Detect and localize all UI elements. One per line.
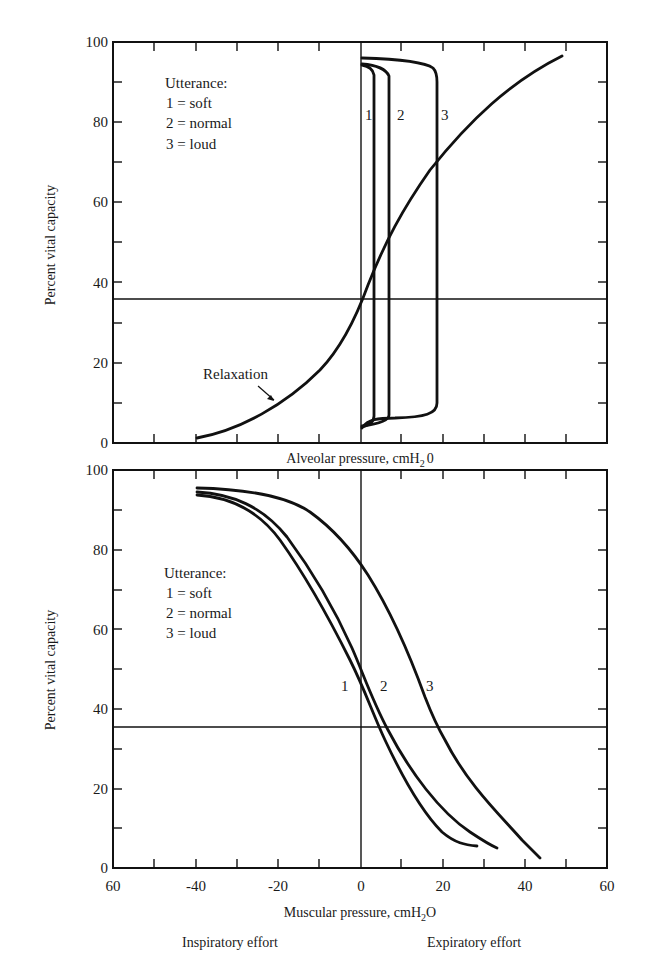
top-legend-soft: 1 = soft (166, 95, 213, 111)
bottom-legend-loud: 3 = loud (166, 625, 217, 641)
top-curve-label-1: 1 (365, 107, 373, 123)
bottom-curve-soft (197, 495, 477, 846)
top-relaxation-arrowhead-icon (267, 395, 274, 401)
top-ytick-40: 40 (93, 275, 108, 291)
top-x-ticks (154, 42, 566, 443)
bottom-ytick-0: 0 (101, 860, 109, 876)
bottom-y-axis-title: Percent vital capacity (43, 610, 58, 731)
bottom-curve-label-1: 1 (341, 678, 349, 694)
bottom-xtick-neg20: -20 (268, 878, 288, 894)
top-legend-normal: 2 = normal (166, 115, 232, 131)
bottom-ytick-20: 20 (93, 781, 108, 797)
bottom-ytick-40: 40 (93, 701, 108, 717)
top-ytick-80: 80 (93, 114, 108, 130)
top-legend-title: Utterance: (165, 75, 227, 91)
bottom-curve-label-3: 3 (426, 678, 434, 694)
bottom-xtick-40: 40 (518, 878, 533, 894)
bottom-curve-label-2: 2 (380, 678, 388, 694)
bottom-legend-title: Utterance: (164, 565, 226, 581)
bottom-curve-loud (197, 488, 540, 858)
bottom-legend: Utterance: 1 = soft 2 = normal 3 = loud (164, 565, 232, 641)
bottom-legend-normal: 2 = normal (166, 605, 232, 621)
inspiratory-effort-label: Inspiratory effort (182, 935, 278, 950)
top-ytick-20: 20 (93, 355, 108, 371)
bottom-xtick-0: 0 (357, 878, 365, 894)
top-y-axis-title: Percent vital capacity (43, 185, 58, 306)
bottom-xtick-60: 60 (600, 878, 615, 894)
top-legend-loud: 3 = loud (166, 136, 217, 152)
top-curve-label-2: 2 (397, 107, 405, 123)
bottom-ytick-100: 100 (86, 462, 109, 478)
bottom-legend-soft: 1 = soft (166, 585, 213, 601)
expiratory-effort-label: Expiratory effort (427, 935, 521, 950)
top-x-axis-title: Alveolar pressure, cmH20 (286, 451, 433, 469)
bottom-xtick-20: 20 (436, 878, 451, 894)
bottom-ytick-60: 60 (93, 622, 108, 638)
top-ytick-0: 0 (101, 435, 109, 451)
top-relaxation-label: Relaxation (203, 366, 268, 382)
top-ytick-100: 100 (86, 34, 109, 50)
bottom-panel: 100 80 60 40 20 0 60 -40 -20 0 20 40 60 … (43, 462, 615, 950)
chart-canvas: 100 80 60 40 20 0 Percent vital capacity… (0, 0, 647, 977)
bottom-xtick-neg40: -40 (186, 878, 206, 894)
top-curve-label-3: 3 (441, 107, 449, 123)
bottom-ytick-80: 80 (93, 542, 108, 558)
top-panel: 100 80 60 40 20 0 Percent vital capacity… (43, 34, 607, 469)
bottom-xtick-neg60: 60 (106, 878, 121, 894)
top-legend: Utterance: 1 = soft 2 = normal 3 = loud (165, 75, 232, 152)
bottom-x-axis-title: Muscular pressure, cmH2O (284, 905, 436, 923)
top-ytick-60: 60 (93, 194, 108, 210)
